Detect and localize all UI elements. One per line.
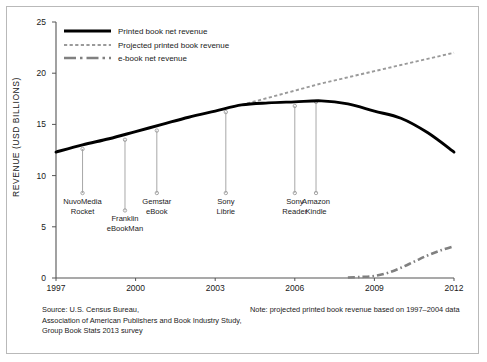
annotation-label-line-2: Kindle (271, 207, 361, 217)
y-tick-label-20: 20 (24, 68, 46, 78)
series-line-printed-book-net-revenue (56, 101, 454, 152)
legend-item-1: Projected printed book revenue (118, 41, 229, 50)
y-tick-marks (52, 22, 56, 278)
y-tick-label-10: 10 (24, 171, 46, 181)
series-line-ebook-net-revenue (348, 246, 454, 277)
x-tick-label-2006: 2006 (275, 283, 315, 293)
annotation-label-5: AmazonKindle (271, 197, 361, 216)
x-tick-label-2009: 2009 (354, 283, 394, 293)
legend-item-2: e-book net revenue (118, 54, 187, 63)
annotation-label-line-1: Amazon (271, 197, 361, 207)
source-note: Source: U.S. Census Bureau, Association … (42, 305, 242, 337)
y-tick-label-0: 0 (24, 273, 46, 283)
x-tick-label-2000: 2000 (116, 283, 156, 293)
source-line-3: Group Book Stats 2013 survey (42, 326, 242, 337)
x-tick-label-2012: 2012 (434, 283, 474, 293)
series-line-projected-printed-book-revenue (242, 53, 454, 105)
y-tick-label-5: 5 (24, 222, 46, 232)
source-line-1: Source: U.S. Census Bureau, (42, 305, 242, 316)
annotation-label-1: FranklineBookMan (80, 214, 170, 233)
y-axis-title: REVENUE (USD BILLIONS) (11, 47, 21, 227)
x-tick-label-2003: 2003 (195, 283, 235, 293)
x-tick-label-1997: 1997 (36, 283, 76, 293)
source-line-2: Association of American Publishers and B… (42, 316, 242, 327)
y-tick-label-25: 25 (24, 17, 46, 27)
projection-note: Note: projected printed book revenue bas… (250, 305, 460, 316)
legend-item-0: Printed book net revenue (118, 27, 207, 36)
annotation-leader-lines (81, 100, 318, 212)
annotation-label-line-2: eBookMan (80, 224, 170, 234)
y-tick-label-15: 15 (24, 119, 46, 129)
chart-canvas: REVENUE (USD BILLIONS) 0510152025 199720… (0, 0, 487, 362)
